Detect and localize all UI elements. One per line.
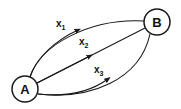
node-a-label: A	[20, 82, 30, 97]
node-a: A	[12, 76, 38, 102]
edge-label-x3: x3	[94, 64, 104, 77]
node-b-label: B	[152, 15, 161, 30]
edge-x2: x2	[37, 28, 145, 83]
edge-label-x1: x1	[56, 18, 66, 31]
flow-diagram: x1 x2 x3 A B	[0, 0, 181, 109]
node-b: B	[144, 9, 170, 35]
edge-label-x2: x2	[79, 36, 89, 49]
edge-x3: x3	[38, 34, 150, 95]
